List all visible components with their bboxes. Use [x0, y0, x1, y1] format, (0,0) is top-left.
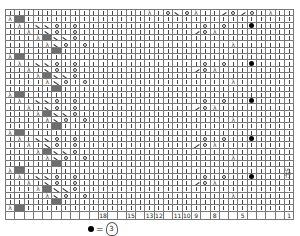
k2tog-symbol	[191, 28, 200, 34]
column-number-row: 1815131211109851	[6, 211, 294, 219]
column-number: 9	[191, 211, 200, 219]
chart-row	[6, 117, 294, 123]
ssk-symbol	[43, 135, 52, 141]
chart-row	[6, 104, 294, 110]
ssk-symbol	[61, 110, 70, 116]
column-number	[52, 211, 61, 219]
column-number	[43, 211, 52, 219]
bobble-stitch-symbol-icon: 3	[106, 222, 118, 236]
column-number: 11	[173, 211, 182, 219]
ssk-symbol	[43, 142, 52, 148]
ssk-symbol	[43, 28, 52, 34]
column-number: 18	[98, 211, 107, 219]
column-number	[201, 211, 210, 219]
k2tog-symbol	[191, 104, 200, 110]
ssk-symbol	[61, 186, 70, 192]
ssk-symbol	[52, 192, 61, 198]
column-number: 12	[154, 211, 163, 219]
chart-row	[6, 28, 294, 34]
ssk-symbol	[61, 35, 70, 41]
ssk-symbol	[43, 173, 52, 179]
ssk-symbol	[61, 148, 70, 154]
ssk-symbol	[52, 41, 61, 47]
column-number	[136, 211, 145, 219]
chart-row	[6, 22, 294, 28]
chart-row	[6, 66, 294, 72]
ssk-symbol	[52, 72, 61, 78]
ssk-symbol	[52, 117, 61, 123]
ssk-symbol	[43, 60, 52, 66]
k2tog-symbol	[191, 142, 200, 148]
column-number: 10	[182, 211, 191, 219]
ssk-symbol	[52, 79, 61, 85]
column-number	[247, 211, 256, 219]
chart-row	[6, 154, 294, 160]
chart-row	[6, 60, 294, 66]
column-number	[24, 211, 33, 219]
chart-row	[6, 180, 294, 186]
ssk-symbol	[33, 135, 42, 141]
ssk-symbol	[43, 22, 52, 28]
column-number	[257, 211, 266, 219]
ssk-symbol	[43, 98, 52, 104]
k2tog-symbol	[219, 10, 228, 16]
column-number	[108, 211, 117, 219]
chart-row	[6, 135, 294, 141]
ssk-symbol	[33, 60, 42, 66]
ssk-symbol	[43, 180, 52, 186]
ssk-symbol	[43, 104, 52, 110]
ssk-symbol	[52, 148, 61, 154]
column-number	[275, 211, 284, 219]
chart-row	[6, 142, 294, 148]
column-number	[266, 211, 275, 219]
ssk-symbol	[43, 66, 52, 72]
column-number	[33, 211, 42, 219]
column-number: 15	[126, 211, 135, 219]
ssk-symbol	[52, 186, 61, 192]
column-number	[71, 211, 80, 219]
column-number	[229, 211, 238, 219]
knitting-chart-grid: 1815131211109851	[5, 9, 294, 220]
ssk-symbol	[61, 72, 70, 78]
column-number	[15, 211, 24, 219]
ssk-symbol	[33, 22, 42, 28]
column-number: 13	[145, 211, 154, 219]
ssk-symbol	[52, 154, 61, 160]
k2tog-symbol	[191, 180, 200, 186]
column-number: 5	[238, 211, 247, 219]
chart-row	[6, 98, 294, 104]
ssk-symbol	[52, 35, 61, 41]
chart-row	[6, 79, 294, 85]
k2tog-symbol	[238, 10, 247, 16]
chart-row	[6, 173, 294, 179]
legend: = 3	[88, 222, 118, 236]
column-number	[61, 211, 70, 219]
bobble-dot-icon	[88, 226, 94, 232]
ssk-symbol	[33, 173, 42, 179]
ssk-symbol	[52, 110, 61, 116]
column-number	[219, 211, 228, 219]
column-number	[117, 211, 126, 219]
chart-row	[6, 41, 294, 47]
legend-equals: =	[96, 224, 104, 234]
column-number	[164, 211, 173, 219]
row-count-label: 5行	[283, 168, 292, 178]
ssk-symbol	[173, 10, 182, 16]
column-number: 1	[284, 211, 293, 219]
column-number	[6, 211, 15, 219]
column-number: 8	[210, 211, 219, 219]
k2tog-symbol	[191, 66, 200, 72]
chart-row	[6, 192, 294, 198]
ssk-symbol	[33, 98, 42, 104]
column-number	[89, 211, 98, 219]
column-number	[80, 211, 89, 219]
